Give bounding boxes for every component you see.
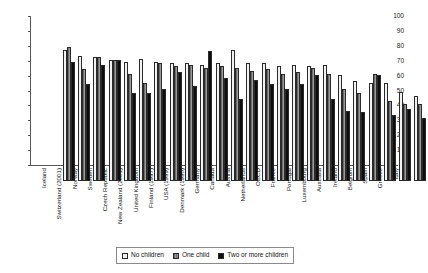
bar-group — [92, 32, 107, 181]
x-axis-label-cell: Czech Republic — [92, 168, 107, 242]
bar-group — [306, 32, 321, 181]
x-axis-label-cell: Sweden — [77, 168, 92, 242]
bar — [315, 75, 319, 181]
y-axis — [0, 0, 30, 273]
x-axis-label-cell: Finland (1997) — [138, 168, 153, 242]
bar — [377, 75, 381, 181]
x-axis-label-cell: USA (1999) — [153, 168, 168, 242]
x-axis-label-cell: Italy — [383, 168, 398, 242]
x-axis-label-cell: United Kingdom — [123, 168, 138, 242]
bar-groups — [61, 32, 428, 181]
x-axis-category-labels: IcelandSwitzerland (2001)NorwaySwedenCze… — [31, 168, 398, 242]
bar — [101, 65, 105, 181]
legend-swatch-no-children — [122, 253, 128, 259]
legend-label: No children — [131, 252, 164, 259]
legend-item: No children — [122, 252, 164, 259]
bar — [178, 72, 182, 181]
bar-group — [413, 32, 428, 181]
bar — [193, 86, 197, 181]
bar-group — [275, 32, 290, 181]
bar-group — [336, 32, 351, 181]
x-axis-label-cell: Denmark (1998) — [169, 168, 184, 242]
x-axis-label-cell: Greece — [368, 168, 383, 242]
x-axis-label-cell: France — [260, 168, 275, 242]
chart-legend: No childrenOne childTwo or more children — [116, 247, 294, 264]
x-axis-label-cell: Norway — [62, 168, 77, 242]
x-axis-label-cell: Canada — [199, 168, 214, 242]
plot-area — [30, 16, 398, 165]
x-axis-label-cell: Australia — [306, 168, 321, 242]
y-axis-tick-mark — [28, 165, 30, 166]
bar-group — [214, 32, 229, 181]
bar-group — [137, 32, 152, 181]
bar-group — [107, 32, 122, 181]
x-axis-label-cell: Spain — [352, 168, 367, 242]
bar — [422, 118, 426, 181]
bar-group — [382, 32, 397, 181]
bar — [254, 80, 258, 181]
bar-group — [398, 32, 413, 181]
bar-group — [352, 32, 367, 181]
legend-label: One child — [182, 252, 209, 259]
bar — [300, 84, 304, 181]
x-axis-label-cell: Luxembourg — [291, 168, 306, 242]
legend-swatch-one-child — [173, 253, 179, 259]
bar-group — [290, 32, 305, 181]
x-axis-label-cell: Iceland — [31, 168, 46, 242]
x-axis-label: Italy — [393, 168, 399, 179]
bar — [117, 60, 121, 181]
bar-group — [122, 32, 137, 181]
bar-group — [183, 32, 198, 181]
bar-group — [245, 32, 260, 181]
legend-label: Two or more children — [227, 252, 288, 259]
x-axis-label-cell: Portugal — [276, 168, 291, 242]
bar-group — [153, 32, 168, 181]
bar-group — [321, 32, 336, 181]
bar-group — [61, 32, 76, 181]
legend-item: One child — [173, 252, 209, 259]
bar-group — [76, 32, 91, 181]
bar-group — [229, 32, 244, 181]
x-axis-label-cell: Netherlands — [230, 168, 245, 242]
x-axis-label-cell: Germany — [184, 168, 199, 242]
bar-group — [199, 32, 214, 181]
legend-item: Two or more children — [218, 252, 288, 259]
x-axis-label-cell: OECD — [245, 168, 260, 242]
bar — [270, 84, 274, 181]
x-axis-label-cell: New Zealand (2001) — [107, 168, 122, 242]
x-axis-label-cell: Ireland — [322, 168, 337, 242]
bar — [71, 62, 75, 181]
bar — [208, 51, 212, 181]
bar — [407, 109, 411, 181]
bar-group — [168, 32, 183, 181]
legend-swatch-two-or-more-children — [218, 253, 224, 259]
x-axis-label-cell: Belgium — [337, 168, 352, 242]
bar-group — [367, 32, 382, 181]
x-axis-label-cell: Switzerland (2001) — [46, 168, 61, 242]
bar-group — [260, 32, 275, 181]
x-axis-label-cell: Austria — [215, 168, 230, 242]
bar — [86, 84, 90, 181]
bar — [224, 78, 228, 181]
